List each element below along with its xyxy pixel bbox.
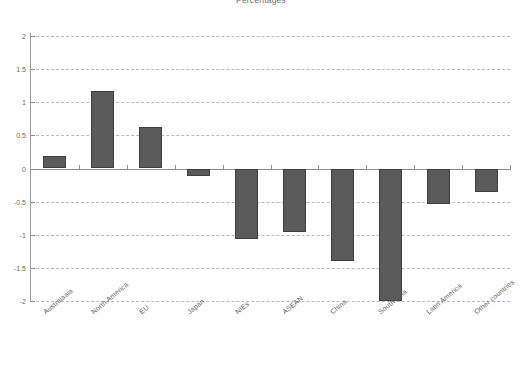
- y-axis-tick-mark: [31, 202, 35, 203]
- x-axis-tick-mark: [366, 165, 367, 170]
- bar: [427, 169, 450, 205]
- x-axis-category-label: EU: [138, 304, 150, 316]
- x-axis-tick-mark: [127, 165, 128, 170]
- y-axis-tick-label: -2: [20, 298, 26, 305]
- gridline: [31, 235, 510, 236]
- x-axis-tick-mark: [271, 165, 272, 170]
- gridline: [31, 36, 510, 37]
- x-axis-tick-mark: [79, 165, 80, 170]
- bar: [283, 169, 306, 233]
- gridline: [31, 268, 510, 269]
- y-axis-tick-label: 0.5: [16, 132, 26, 139]
- y-axis-tick-mark: [31, 135, 35, 136]
- x-axis-tick-mark: [414, 165, 415, 170]
- chart-title: Percentages: [0, 0, 522, 5]
- x-axis-tick-mark: [175, 165, 176, 170]
- y-axis-tick-label: -1.5: [14, 264, 26, 271]
- y-axis-tick-label: 0: [22, 165, 26, 172]
- x-axis-category-label: NIEs: [234, 300, 250, 315]
- y-axis-tick-mark: [31, 235, 35, 236]
- bar: [235, 169, 258, 239]
- gridline: [31, 69, 510, 70]
- y-axis-tick-mark: [31, 169, 35, 170]
- y-axis-tick-mark: [31, 301, 35, 302]
- bar: [139, 127, 162, 168]
- bar: [91, 91, 114, 169]
- bar: [475, 169, 498, 193]
- bar: [331, 169, 354, 261]
- y-axis-tick-mark: [31, 268, 35, 269]
- bar: [379, 169, 402, 302]
- y-axis-tick-labels: 21.510.50-0.5-1-1.5-2: [0, 36, 26, 301]
- x-axis-tick-mark: [318, 165, 319, 170]
- x-axis-tick-mark: [223, 165, 224, 170]
- chart-screenshot: Percentages 21.510.50-0.5-1-1.5-2 Austra…: [0, 0, 522, 369]
- y-axis-tick-label: 1: [22, 99, 26, 106]
- x-axis-tick-mark: [510, 165, 511, 170]
- y-axis-tick-mark: [31, 102, 35, 103]
- bar: [43, 156, 66, 169]
- y-axis-tick-mark: [31, 69, 35, 70]
- y-axis-tick-label: 2: [22, 33, 26, 40]
- y-axis-tick-label: -0.5: [14, 198, 26, 205]
- y-axis-tick-mark: [31, 36, 35, 37]
- y-axis-tick-label: -1: [20, 231, 26, 238]
- x-axis-tick-mark: [462, 165, 463, 170]
- y-axis-tick-label: 1.5: [16, 66, 26, 73]
- bar: [187, 169, 210, 177]
